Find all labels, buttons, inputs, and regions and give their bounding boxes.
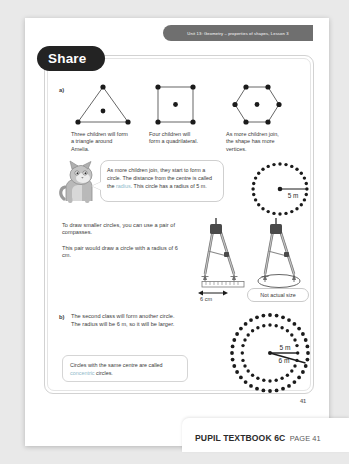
- concentric-highlight: concentric: [70, 370, 95, 376]
- part-b-label: b): [59, 314, 64, 320]
- part-b-line-2: The radius will be 6 m, so it will be la…: [71, 321, 226, 328]
- footer-text: PUPIL TEXTBOOK 6C PAGE 41: [195, 427, 321, 445]
- concentric-note-box: Circles with the same centre are called …: [62, 355, 188, 382]
- part-b-line-1: The second class will form another circl…: [71, 313, 221, 320]
- compasses-paragraph-1: To draw smaller circles, you can use a p…: [62, 222, 180, 237]
- speech-bubble-text: As more children join, they start to for…: [107, 166, 220, 191]
- dotted-circle-5m-diagram: 5 m: [249, 160, 311, 218]
- page-number: 41: [300, 398, 306, 404]
- speech-line-1: As more children join, they start: [107, 167, 183, 173]
- radius-highlight: radius: [116, 183, 131, 189]
- concentric-note-text: Circles with the same centre are called …: [70, 361, 184, 378]
- share-section-label: Share: [48, 51, 87, 66]
- compasses-paragraph-2: This pair would draw a circle with a rad…: [62, 245, 182, 260]
- footer-page-label: PAGE 41: [290, 434, 321, 443]
- circle-5m-radius-label: 5 m: [288, 192, 299, 199]
- speech-bubble: As more children join, they start to for…: [100, 160, 224, 202]
- square-diagram: [150, 82, 202, 127]
- not-actual-size-label: Not actual size: [260, 292, 295, 298]
- unit-banner: Unit 13: Geometry – properties of shapes…: [163, 25, 313, 41]
- footer-book-title: PUPIL TEXTBOOK 6C: [195, 433, 285, 443]
- share-section-banner: Share: [37, 46, 105, 71]
- concentric-note-pre: Circles with the same centre are called: [70, 362, 163, 368]
- compass-drawing-circle-diagram: [256, 218, 312, 290]
- caption-square: Four children will form a quadrilateral.: [149, 131, 201, 146]
- speech-line-3-post: .: [131, 183, 133, 189]
- caption-hexagon: As more children join, the shape has mor…: [226, 131, 286, 153]
- concentric-inner-label: 5 m: [280, 344, 291, 351]
- unit-banner-label: Unit 13: Geometry – properties of shapes…: [187, 31, 288, 36]
- speech-line-4: This circle has a radius of 5 m.: [134, 183, 207, 189]
- triangle-diagram: [72, 82, 134, 127]
- hexagon-diagram: [228, 82, 286, 127]
- ruler-measure-label: 6 cm: [200, 296, 212, 303]
- compass-with-ruler-diagram: [196, 218, 258, 290]
- concentric-outer-label: 6 m: [279, 357, 290, 364]
- concentric-note-post: circles.: [95, 370, 113, 376]
- part-a-label: a): [59, 87, 64, 93]
- not-actual-size-note: Not actual size: [247, 288, 309, 302]
- caption-triangle: Three children will form a triangle arou…: [71, 131, 129, 153]
- textbook-page-screenshot: Unit 13: Geometry – properties of shapes…: [0, 0, 349, 464]
- speech-bubble-tail: [92, 182, 101, 190]
- footer-bar: PUPIL TEXTBOOK 6C PAGE 41: [182, 418, 349, 452]
- concentric-circles-diagram: 5 m 6 m: [227, 311, 313, 395]
